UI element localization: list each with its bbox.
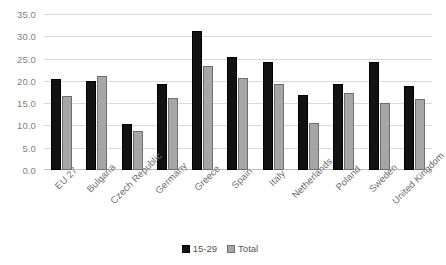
legend-swatch-icon — [182, 245, 190, 253]
bar-group — [115, 14, 150, 170]
bar-group — [79, 14, 114, 170]
y-axis-tick-label: 20.0 — [17, 75, 36, 86]
y-axis-tick-label: 30.0 — [17, 31, 36, 42]
bar-total — [203, 66, 213, 170]
bar-group — [397, 14, 432, 170]
bar-group — [220, 14, 255, 170]
y-axis-tick-label: 15.0 — [17, 98, 36, 109]
x-axis-tick: United Kingdom — [397, 172, 432, 234]
y-axis-tick-label: 0.0 — [22, 165, 36, 176]
bar-total — [344, 93, 354, 170]
bar-total — [62, 96, 72, 170]
x-axis-tick: Greece — [185, 172, 220, 234]
bar-young — [404, 86, 414, 170]
x-axis-tick: Italy — [256, 172, 291, 234]
y-axis: 0.05.010.015.020.025.030.035.0 — [0, 14, 40, 170]
x-axis-tick: EU 27 — [44, 172, 79, 234]
x-axis-tick: Netherlands — [291, 172, 326, 234]
x-axis-tick-label: Italy — [267, 168, 287, 188]
bars-layer — [44, 14, 432, 170]
legend-label: 15-29 — [193, 243, 217, 254]
y-axis-tick-label: 25.0 — [17, 53, 36, 64]
bar-total — [238, 78, 248, 170]
legend-item[interactable]: 15-29 — [182, 243, 217, 254]
bar-group — [291, 14, 326, 170]
bar-group — [256, 14, 291, 170]
x-axis-tick: Czech Republic — [115, 172, 150, 234]
bar-young — [333, 84, 343, 170]
bar-group — [326, 14, 361, 170]
y-axis-tick-label: 10.0 — [17, 120, 36, 131]
y-axis-tick-label: 5.0 — [22, 142, 36, 153]
bar-young — [227, 57, 237, 170]
bar-total — [97, 76, 107, 170]
bar-total — [274, 84, 284, 170]
x-axis: EU 27BulgariaCzech RepublicGermanyGreece… — [44, 172, 432, 234]
legend-swatch-icon — [227, 245, 235, 253]
bar-group — [150, 14, 185, 170]
bar-young — [51, 79, 61, 170]
bar-young — [192, 31, 202, 170]
y-axis-tick-label: 35.0 — [17, 9, 36, 20]
bar-young — [122, 124, 132, 170]
x-axis-tick: Spain — [220, 172, 255, 234]
bar-young — [263, 62, 273, 170]
legend-label: Total — [238, 243, 258, 254]
x-axis-tick: Poland — [326, 172, 361, 234]
bar-group — [185, 14, 220, 170]
x-axis-tick: Germany — [150, 172, 185, 234]
bar-total — [415, 99, 425, 170]
bar-group — [361, 14, 396, 170]
bar-young — [86, 81, 96, 170]
x-axis-tick: Sweden — [361, 172, 396, 234]
bar-young — [369, 62, 379, 170]
x-axis-tick: Bulgaria — [79, 172, 114, 234]
bar-young — [298, 95, 308, 170]
bar-total — [168, 98, 178, 170]
chart-legend: 15-29Total — [0, 243, 440, 254]
bar-group — [44, 14, 79, 170]
legend-item[interactable]: Total — [227, 243, 258, 254]
bar-total — [380, 103, 390, 170]
